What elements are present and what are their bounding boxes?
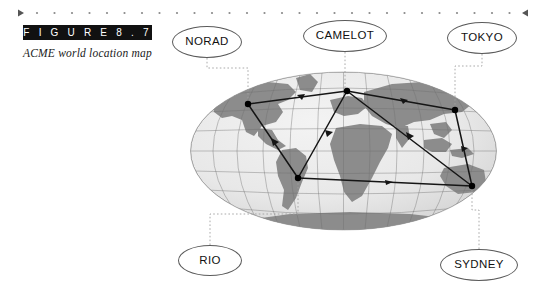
callout-label-rio: RIO xyxy=(199,255,221,267)
node-sydney xyxy=(469,183,475,189)
callout-sydney[interactable]: SYDNEY xyxy=(440,249,518,281)
callout-rio[interactable]: RIO xyxy=(178,245,242,276)
callout-label-tokyo: TOKYO xyxy=(461,32,503,44)
node-tokyo xyxy=(452,107,458,113)
node-camelot xyxy=(344,88,350,94)
leader-sydney xyxy=(472,186,479,249)
callout-camelot[interactable]: CAMELOT xyxy=(303,20,387,52)
callout-tokyo[interactable]: TOKYO xyxy=(447,22,517,54)
callout-label-norad: NORAD xyxy=(185,36,229,48)
node-norad xyxy=(245,101,251,107)
figure-page: F I G U R E 8 . 7 ACME world location ma… xyxy=(0,0,542,291)
callout-norad[interactable]: NORAD xyxy=(172,26,242,58)
node-rio xyxy=(295,175,301,181)
callout-label-camelot: CAMELOT xyxy=(316,30,374,42)
callout-label-sydney: SYDNEY xyxy=(454,259,504,271)
